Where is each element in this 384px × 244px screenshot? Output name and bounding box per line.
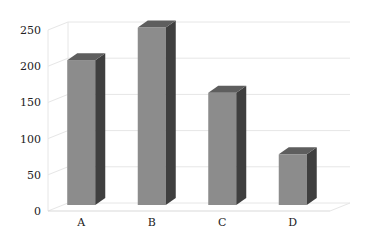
bar-front-face: [208, 93, 236, 205]
gridline-depth: [48, 131, 68, 139]
bar-B: [138, 21, 176, 205]
x-tick-label: D: [288, 216, 297, 229]
bar-side-face: [95, 53, 105, 205]
y-tick-label: 250: [20, 24, 41, 37]
bar-front-face: [138, 28, 166, 205]
x-tick-label: B: [148, 216, 156, 229]
bar-front-face: [279, 154, 307, 205]
y-axis-tick-labels: 050100150200250: [20, 24, 41, 218]
bar-C: [208, 86, 246, 205]
x-axis-category-labels: ABCD: [76, 216, 297, 229]
bar-series: [67, 21, 317, 205]
x-tick-label: A: [76, 216, 86, 229]
bar-A: [67, 53, 105, 205]
bar-chart: 050100150200250 ABCD: [0, 0, 384, 244]
bar-side-face: [236, 86, 246, 205]
gridline-depth: [48, 22, 68, 30]
bar-front-face: [67, 60, 95, 205]
gridline-depth: [48, 58, 68, 66]
y-tick-label: 0: [34, 205, 41, 218]
y-tick-label: 50: [27, 169, 41, 182]
x-tick-label: C: [218, 216, 226, 229]
bar-D: [279, 147, 317, 205]
y-tick-label: 100: [20, 133, 41, 146]
y-tick-label: 200: [20, 60, 41, 73]
gridline-depth: [48, 94, 68, 102]
floor-depth-edge: [330, 203, 350, 211]
bar-side-face: [166, 21, 176, 205]
bar-side-face: [307, 147, 317, 205]
gridline-depth: [48, 203, 68, 211]
y-tick-label: 150: [20, 96, 41, 109]
gridline-depth: [48, 167, 68, 175]
